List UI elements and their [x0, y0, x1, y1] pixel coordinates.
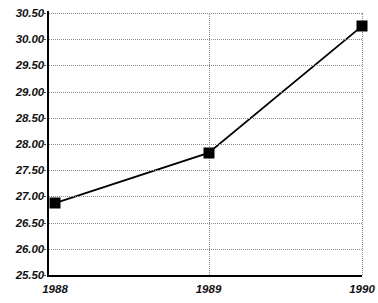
- y-axis-tick-label: 27.50: [2, 164, 44, 176]
- y-axis-tick-label: 30.00: [2, 33, 44, 45]
- line-chart: 30.5030.0029.5029.0028.5028.0027.5027.00…: [0, 0, 378, 303]
- y-axis-tick: [42, 65, 46, 66]
- y-axis-tick: [42, 13, 46, 14]
- gridline-horizontal: [49, 249, 362, 250]
- y-axis-tick-label: 28.50: [2, 112, 44, 124]
- x-axis-line: [47, 275, 362, 277]
- y-axis-tick: [42, 275, 46, 276]
- plot-area: [49, 13, 362, 275]
- y-axis-tick: [42, 92, 46, 93]
- data-point-marker: [357, 21, 368, 32]
- y-axis-tick: [42, 196, 46, 197]
- y-axis-tick-label: 25.50: [2, 269, 44, 281]
- gridline-vertical: [209, 13, 210, 275]
- gridline-horizontal: [49, 223, 362, 224]
- gridline-horizontal: [49, 144, 362, 145]
- y-axis-tick-label: 26.00: [2, 243, 44, 255]
- y-axis-labels: 30.5030.0029.5029.0028.5028.0027.5027.00…: [0, 0, 44, 303]
- data-point-marker: [203, 147, 214, 158]
- y-axis-tick: [42, 223, 46, 224]
- y-axis-tick-label: 27.00: [2, 190, 44, 202]
- y-axis-tick-label: 29.50: [2, 59, 44, 71]
- y-axis-tick: [42, 144, 46, 145]
- y-axis-tick: [42, 249, 46, 250]
- x-axis-tick-label: 1988: [42, 283, 68, 295]
- data-point-marker: [50, 198, 61, 209]
- y-axis-tick: [42, 39, 46, 40]
- y-axis-tick-label: 29.00: [2, 86, 44, 98]
- x-axis-tick-label: 1990: [349, 283, 375, 295]
- y-axis-tick-label: 26.50: [2, 217, 44, 229]
- gridline-horizontal: [49, 39, 362, 40]
- y-axis-tick: [42, 170, 46, 171]
- gridline-vertical: [362, 13, 363, 275]
- y-axis-tick-label: 30.50: [2, 7, 44, 19]
- y-axis-tick: [42, 118, 46, 119]
- x-axis-tick-label: 1989: [196, 283, 222, 295]
- gridline-horizontal: [49, 13, 362, 14]
- gridline-horizontal: [49, 196, 362, 197]
- gridline-horizontal: [49, 65, 362, 66]
- gridline-horizontal: [49, 170, 362, 171]
- y-axis-tick-label: 28.00: [2, 138, 44, 150]
- gridline-horizontal: [49, 92, 362, 93]
- gridline-horizontal: [49, 118, 362, 119]
